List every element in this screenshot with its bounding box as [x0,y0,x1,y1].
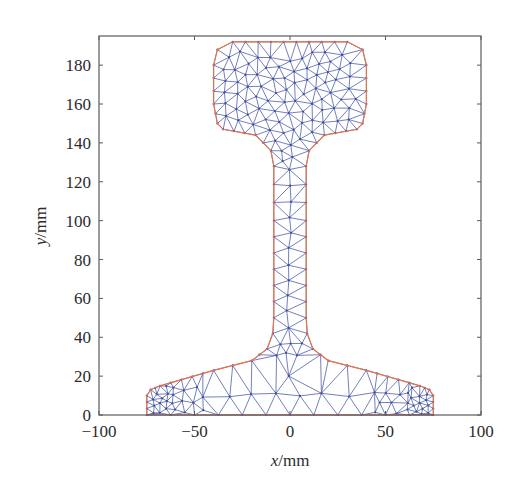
mesh-node [225,115,227,117]
y-tick-label: 40 [74,328,91,347]
y-tick-label: 100 [66,212,92,231]
x-tick-label: −50 [181,422,208,441]
mesh-node [274,110,276,112]
mesh-node [202,396,204,398]
x-axis-label: x/mm [270,451,310,470]
mesh-node [260,85,262,87]
mesh-node [303,93,305,95]
mesh-node [286,310,288,312]
mesh-node [167,393,169,395]
mesh-node [330,92,332,94]
mesh-node [341,54,343,56]
mesh-node [321,109,323,111]
mesh-node [156,393,158,395]
mesh-node [159,402,161,404]
mesh-node [290,144,292,146]
mesh-node [294,82,296,84]
mesh-node [395,413,397,415]
mesh-node [306,67,308,69]
mesh-node [311,103,313,105]
rail-mesh-figure: −100−50050100 020406080100120140160180 x… [0,0,525,499]
mesh-node [348,395,350,397]
mesh-node [229,396,231,398]
mesh-node [161,397,163,399]
mesh-node [272,78,274,80]
y-tick-label: 80 [74,251,91,270]
mesh-node [153,405,155,407]
mesh-node [324,81,326,83]
mesh-node [247,114,249,116]
mesh-node [192,402,194,404]
mesh-node [244,74,246,76]
mesh-node [418,395,420,397]
mesh-node [196,386,198,388]
mesh-node [289,185,291,187]
mesh-node [333,107,335,109]
mesh-node [237,81,239,83]
mesh-node [269,129,271,131]
mesh-node [289,60,291,62]
mesh-node [275,392,277,394]
mesh-node [316,74,318,76]
mesh-node [415,411,417,413]
mesh-node [306,79,308,81]
mesh-node [222,68,224,70]
mesh-node [278,121,280,123]
mesh-node [159,412,161,414]
mesh-node [184,411,186,413]
mesh-node [327,71,329,73]
y-axis-label-unit: /mm [31,207,50,238]
mesh-node [407,402,409,404]
mesh-node [406,408,408,410]
mesh-node [252,123,254,125]
mesh-node [299,138,301,140]
y-axis-label-var: y [31,237,50,247]
mesh-node [296,354,298,356]
mesh-node [288,279,290,281]
mesh-node [427,412,429,414]
y-axis-label: y/mm [31,207,50,248]
mesh-node [288,168,290,170]
mesh-node [315,87,317,89]
mesh-node [248,63,250,65]
mesh-node [290,232,292,234]
mesh-node [288,112,290,114]
y-tick-label: 20 [74,367,91,386]
mesh-node [373,391,375,393]
mesh-node [290,342,292,344]
mesh-node [224,102,226,104]
mesh-node [258,107,260,109]
mesh-node [374,411,376,413]
mesh-node [172,387,174,389]
mesh-node [247,86,249,88]
mesh-node [390,401,392,403]
mesh-node [288,327,290,329]
mesh-node [255,96,257,98]
mesh-node [183,389,185,391]
mesh-node [228,56,230,58]
mesh-node [224,80,226,82]
mesh-node [282,160,284,162]
mesh-node [250,393,252,395]
mesh-node [235,108,237,110]
mesh-node [269,56,271,58]
rail-boundary-outline [147,42,434,415]
mesh-node [289,217,291,219]
mesh-node [411,387,413,389]
mesh-node [283,77,285,79]
mesh-node [265,67,267,69]
y-tick-label: 140 [66,134,92,153]
y-tick-label: 160 [66,95,92,114]
mesh-node [385,392,387,394]
mesh-node [234,69,236,71]
mesh-node [287,264,289,266]
mesh-node [288,247,290,249]
mesh-node [288,375,290,377]
mesh-node [267,100,269,102]
mesh-node [276,354,278,356]
mesh-node [174,409,176,411]
mesh-node [181,400,183,402]
mesh-node [302,111,304,113]
mesh-node [244,100,246,102]
mesh-node [355,98,357,100]
